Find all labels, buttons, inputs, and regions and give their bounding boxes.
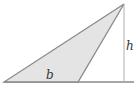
triangle-diagram: b h: [0, 0, 135, 101]
height-label: h: [126, 39, 134, 53]
base-label: b: [46, 68, 54, 82]
triangle: [4, 4, 124, 82]
